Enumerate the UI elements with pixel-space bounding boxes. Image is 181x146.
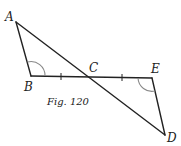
- point-label-c: C: [89, 62, 98, 74]
- segment-be: [31, 76, 152, 78]
- segment-ab: [16, 22, 31, 76]
- point-label-a: A: [5, 11, 14, 23]
- point-label-b: B: [24, 81, 33, 93]
- geometry-figure: A B C E D Fig. 120: [0, 0, 181, 146]
- figure-caption: Fig. 120: [47, 97, 89, 107]
- point-label-d: D: [167, 132, 177, 144]
- point-label-e: E: [151, 63, 160, 75]
